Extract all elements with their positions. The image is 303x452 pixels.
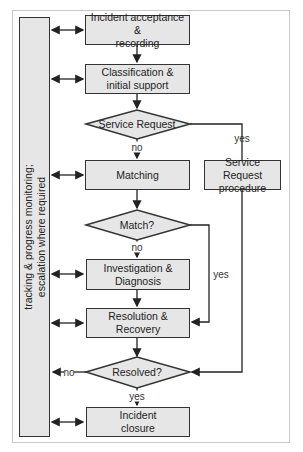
matching-label: Matching [116, 169, 159, 182]
match-decision-label: Match? [120, 219, 154, 232]
match-no-label: no [131, 242, 142, 253]
investigation-line-1: Investigation & [104, 262, 173, 275]
investigation-box: Investigation &Diagnosis [86, 259, 190, 290]
service-request-procedure-box: Service Requestprocedure [204, 160, 281, 190]
resolved-yes-label: yes [129, 391, 145, 402]
classification-box: Classification &initial support [85, 64, 190, 94]
acceptance-line-1: Incident acceptance & [86, 11, 189, 37]
sr-procedure-line-1: Service Request [205, 156, 280, 182]
resolution-line-1: Resolution & [108, 310, 168, 323]
closure-line-2: closure [120, 422, 157, 435]
match-yes-label: yes [213, 269, 229, 280]
sr-yes-label: yes [234, 133, 250, 144]
sr-procedure-line-2: procedure [205, 182, 280, 195]
service-request-decision-label: Service Request [98, 118, 175, 131]
closure-line-1: Incident [120, 409, 157, 422]
acceptance-line-2: recording [86, 37, 189, 50]
incident-acceptance-box: Incident acceptance &recording [85, 15, 190, 45]
incident-closure-box: Incidentclosure [86, 407, 190, 437]
matching-box: Matching [85, 160, 190, 190]
classification-line-2: initial support [102, 79, 174, 92]
resolved-no-label: no [63, 367, 74, 378]
investigation-line-2: Diagnosis [104, 275, 173, 288]
resolved-decision-label: Resolved? [112, 366, 162, 379]
classification-line-1: Classification & [102, 66, 174, 79]
sr-no-label: no [131, 142, 142, 153]
resolution-line-2: Recovery [108, 323, 168, 336]
resolution-box: Resolution &Recovery [86, 308, 190, 338]
